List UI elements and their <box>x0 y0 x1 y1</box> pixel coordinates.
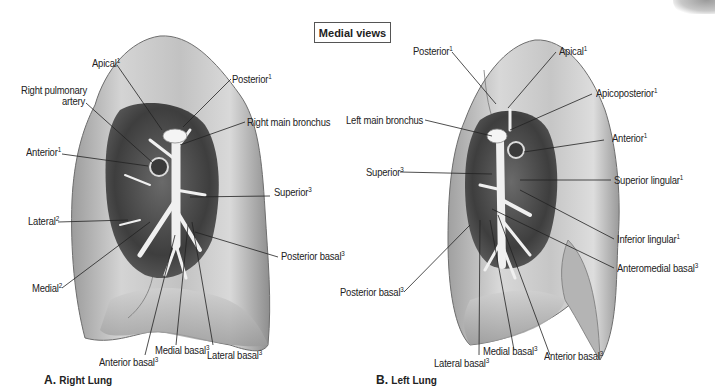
label-lateral-basal: Lateral basal3 <box>207 349 262 361</box>
label-anterior: Anterior1 <box>26 146 61 158</box>
label-posterior-b: Posterior1 <box>413 45 453 57</box>
label-anteromedial-basal: Anteromedial basal3 <box>617 262 698 274</box>
caption-text: Right Lung <box>59 375 112 386</box>
label-anterior-basal: Anterior basal3 <box>99 356 158 368</box>
medial-views-figure: Medial views <box>0 0 715 391</box>
label-superior-b: Superior3 <box>366 166 404 178</box>
caption-left-lung: B. Left Lung <box>376 373 437 387</box>
label-inferior-lingular: Inferior lingular1 <box>617 233 680 245</box>
label-lateral: Lateral2 <box>28 215 59 227</box>
label-left-main-bronchus: Left main bronchus <box>346 114 423 126</box>
label-apical: Apical1 <box>92 57 120 69</box>
caption-right-lung: A. Right Lung <box>44 373 112 387</box>
label-posterior: Posterior1 <box>232 73 272 85</box>
caption-letter: B. <box>376 373 388 387</box>
label-lateral-basal-b: Lateral basal3 <box>434 357 489 369</box>
label-posterior-basal: Posterior basal3 <box>281 250 345 262</box>
label-apicoposterior: Apicoposterior1 <box>596 87 657 99</box>
label-medial-basal-b: Medial basal3 <box>483 345 537 357</box>
caption-text: Left Lung <box>391 375 437 386</box>
label-medial-basal: Medial basal3 <box>155 344 209 356</box>
label-right-main-bronchus: Right main bronchus <box>247 116 330 128</box>
label-apical-b: Apical1 <box>559 45 587 57</box>
label-medial: Medial2 <box>32 282 62 294</box>
label-right-pulmonary-artery-line2: artery <box>62 95 85 107</box>
left-lung <box>448 40 619 360</box>
label-posterior-basal-b: Posterior basal3 <box>340 286 404 298</box>
label-anterior-b: Anterior1 <box>612 132 647 144</box>
label-superior-lingular: Superior lingular1 <box>614 174 683 186</box>
label-anterior-basal-b: Anterior basal3 <box>544 350 603 362</box>
label-superior: Superior3 <box>274 186 312 198</box>
caption-letter: A. <box>44 373 56 387</box>
